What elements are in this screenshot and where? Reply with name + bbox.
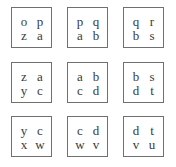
tile-letter-top-right: b bbox=[89, 70, 103, 83]
letter-tile-r3-c3: d t v u bbox=[123, 116, 164, 157]
tile-letter-top-right: t bbox=[145, 124, 159, 137]
letter-tile-r1-c1: o p z a bbox=[11, 7, 52, 48]
tile-letter-bottom-right: s bbox=[145, 29, 159, 42]
tile-letter-top-left: o bbox=[17, 15, 31, 28]
tile-letter-bottom-right: b bbox=[89, 29, 103, 42]
tile-letter-top-left: b bbox=[129, 70, 143, 83]
tile-letter-bottom-right: a bbox=[33, 29, 47, 42]
letter-tile-r3-c2: c d w v bbox=[67, 116, 108, 157]
tile-letter-bottom-right: t bbox=[145, 84, 159, 97]
tile-letter-bottom-right: d bbox=[89, 84, 103, 97]
letter-tile-r2-c2: a b c d bbox=[67, 62, 108, 103]
letter-tile-r2-c3: b s d t bbox=[123, 62, 164, 103]
tile-letter-top-right: s bbox=[145, 70, 159, 83]
tile-letter-top-right: a bbox=[33, 70, 47, 83]
tile-letter-top-left: p bbox=[73, 15, 87, 28]
tile-letter-bottom-left: w bbox=[73, 138, 87, 151]
tile-letter-bottom-left: b bbox=[129, 29, 143, 42]
tile-letter-bottom-left: c bbox=[73, 84, 87, 97]
tile-letter-bottom-left: v bbox=[129, 138, 143, 151]
letter-tile-r2-c1: z a y c bbox=[11, 62, 52, 103]
tile-letter-top-right: q bbox=[89, 15, 103, 28]
letter-tile-r1-c3: q r b s bbox=[123, 7, 164, 48]
tile-letter-bottom-left: z bbox=[17, 29, 31, 42]
tile-letter-top-left: d bbox=[129, 124, 143, 137]
tile-letter-top-left: z bbox=[17, 70, 31, 83]
letter-tile-grid: o p z a p q a b q r b s z a y c a b c d … bbox=[0, 0, 176, 167]
letter-tile-r1-c2: p q a b bbox=[67, 7, 108, 48]
tile-letter-top-left: a bbox=[73, 70, 87, 83]
tile-letter-bottom-right: w bbox=[33, 138, 47, 151]
letter-tile-r3-c1: y c x w bbox=[11, 116, 52, 157]
tile-letter-bottom-right: c bbox=[33, 84, 47, 97]
tile-letter-top-left: c bbox=[73, 124, 87, 137]
tile-letter-top-right: p bbox=[33, 15, 47, 28]
tile-letter-top-left: q bbox=[129, 15, 143, 28]
tile-letter-bottom-left: a bbox=[73, 29, 87, 42]
tile-letter-bottom-left: d bbox=[129, 84, 143, 97]
tile-letter-top-right: d bbox=[89, 124, 103, 137]
tile-letter-bottom-right: v bbox=[89, 138, 103, 151]
tile-letter-top-right: r bbox=[145, 15, 159, 28]
tile-letter-bottom-left: x bbox=[17, 138, 31, 151]
tile-letter-top-right: c bbox=[33, 124, 47, 137]
tile-letter-bottom-left: y bbox=[17, 84, 31, 97]
tile-letter-bottom-right: u bbox=[145, 138, 159, 151]
tile-letter-top-left: y bbox=[17, 124, 31, 137]
